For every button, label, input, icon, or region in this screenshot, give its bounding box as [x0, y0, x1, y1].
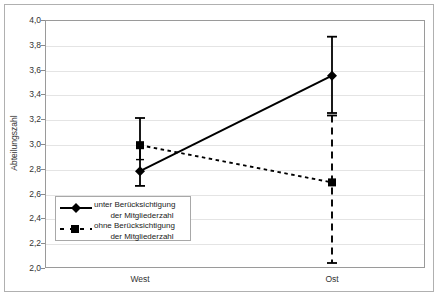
- gridline-3-0: [46, 145, 424, 146]
- y-tick-label: 2,4: [1, 214, 41, 223]
- legend-label-unter: unter Berücksichtigung der Mitgliederzah…: [94, 200, 190, 221]
- legend-label-unter-line1: unter Berücksichtigung: [94, 200, 190, 211]
- y-tick-label: 2,2: [1, 239, 41, 248]
- legend-symbol-solid-diamond: [59, 201, 93, 215]
- x-tick-label-west: West: [100, 274, 180, 284]
- chart-screenshot: 4,0 3,8 3,6 3,4 3,2 3,0 2,8 2,6 2,4 2,2 …: [0, 0, 441, 303]
- y-tick-label: 4,0: [1, 16, 41, 25]
- y-tick-label: 2,6: [1, 189, 41, 198]
- y-axis-ticks: 4,0 3,8 3,6 3,4 3,2 3,0 2,8 2,6 2,4 2,2 …: [0, 20, 41, 268]
- y-tick-mark: [41, 194, 45, 195]
- y-tick-mark: [41, 243, 45, 244]
- legend-label-ohne: ohne Berücksichtigung der Mitgliederzahl: [94, 221, 190, 242]
- y-tick-mark: [41, 169, 45, 170]
- y-tick-mark: [41, 94, 45, 95]
- legend-item-unter: unter Berücksichtigung der Mitgliederzah…: [56, 201, 190, 222]
- legend-label-unter-line2: der Mitgliederzahl: [94, 211, 190, 222]
- x-tick-label-ost: Ost: [292, 274, 372, 284]
- gridline-3-6: [46, 71, 424, 72]
- y-tick-mark: [41, 268, 45, 269]
- gridline-3-2: [46, 120, 424, 121]
- y-tick-mark: [41, 119, 45, 120]
- y-tick-label: 3,6: [1, 65, 41, 74]
- y-tick-mark: [41, 45, 45, 46]
- y-tick-mark: [41, 218, 45, 219]
- y-tick-label: 3,8: [1, 41, 41, 50]
- gridline-3-4: [46, 95, 424, 96]
- chart-legend: unter Berücksichtigung der Mitgliederzah…: [55, 196, 191, 241]
- y-axis-title: Abteilungszahl: [9, 93, 19, 193]
- legend-label-ohne-line2: der Mitgliederzahl: [94, 232, 190, 243]
- legend-item-ohne: ohne Berücksichtigung der Mitgliederzahl: [56, 222, 190, 243]
- y-tick-label: 3,4: [1, 90, 41, 99]
- y-tick-mark: [41, 144, 45, 145]
- y-tick-label: 2,0: [1, 264, 41, 273]
- y-tick-label: 2,8: [1, 165, 41, 174]
- gridline-2-2: [46, 244, 424, 245]
- gridline-2-8: [46, 170, 424, 171]
- y-tick-mark: [41, 70, 45, 71]
- y-tick-label: 3,0: [1, 140, 41, 149]
- gridline-3-8: [46, 46, 424, 47]
- y-tick-label: 3,2: [1, 115, 41, 124]
- legend-label-ohne-line1: ohne Berücksichtigung: [94, 221, 190, 232]
- y-tick-mark: [41, 20, 45, 21]
- legend-symbol-dashed-square: [59, 222, 93, 236]
